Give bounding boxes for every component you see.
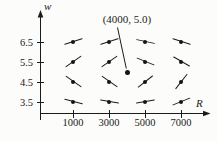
y-axis-tick <box>37 102 45 103</box>
y-axis-tick <box>37 82 45 83</box>
y-tick-label: 5.5 <box>6 57 33 68</box>
x-tick-label: 1000 <box>56 117 90 128</box>
y-tick-label: 6.5 <box>6 37 33 48</box>
y-axis-tick <box>37 62 45 63</box>
x-axis-label: R <box>196 98 203 109</box>
y-axis-arrow-icon <box>38 10 44 18</box>
y-tick-label: 3.5 <box>6 97 33 108</box>
y-axis-tick <box>37 42 45 43</box>
equilibrium-point-dot <box>125 70 130 75</box>
equilibrium-annotation-label: (4000, 5.0) <box>95 13 159 25</box>
annotation-leader-line <box>118 28 127 69</box>
x-tick-label: 7000 <box>164 117 198 128</box>
x-axis-arrow-icon <box>203 111 211 117</box>
x-tick-label: 3000 <box>92 117 126 128</box>
y-tick-label: 4.5 <box>6 77 33 88</box>
y-axis-label: w <box>44 1 51 12</box>
direction-field-figure: w R (4000, 5.0) 6.55.54.53.5100030005000… <box>0 0 217 141</box>
x-tick-label: 5000 <box>128 117 162 128</box>
